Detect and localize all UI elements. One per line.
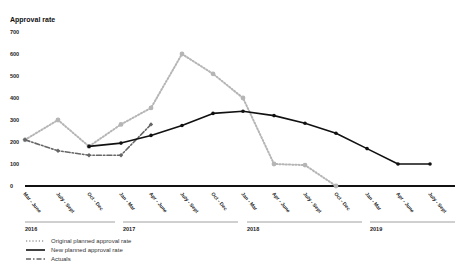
x-tick-label: July - Sept <box>302 191 323 214</box>
data-point-marker <box>334 184 339 189</box>
x-tick-label: Oct - Dec <box>86 191 105 212</box>
data-point-marker <box>180 124 184 128</box>
y-tick-label: 300 <box>10 117 19 123</box>
data-point-marker <box>56 149 60 153</box>
y-axis-ticks: 0100200300400500600700 <box>10 29 19 189</box>
data-point-marker <box>149 134 153 138</box>
data-point-marker <box>149 106 154 111</box>
y-tick-label: 0 <box>10 183 13 189</box>
x-tick-label: Apr - June <box>395 191 416 214</box>
data-point-marker <box>272 114 276 118</box>
x-axis-ticks: Mar - JuneJuly - SeptOct - DecJan - MarA… <box>22 191 448 214</box>
approval-rate-chart: Approval rate 0100200300400500600700 Mar… <box>0 0 465 272</box>
y-tick-label: 600 <box>10 51 19 57</box>
data-point-marker <box>396 162 400 166</box>
y-axis-title: Approval rate <box>10 16 55 24</box>
x-tick-label: July - Sept <box>179 191 200 214</box>
y-tick-label: 400 <box>10 95 19 101</box>
x-tick-label: Jan - Mar <box>364 191 383 212</box>
data-point-marker <box>303 122 307 126</box>
data-point-marker <box>87 145 91 149</box>
year-label: 2018 <box>247 226 259 232</box>
legend: Original planned approval rateNew planne… <box>26 238 132 262</box>
x-tick-label: Mar - June <box>22 191 43 214</box>
data-point-marker <box>272 162 277 167</box>
data-point-marker <box>87 153 91 157</box>
data-point-marker <box>56 118 61 123</box>
legend-label: Actuals <box>51 256 71 262</box>
data-point-marker <box>303 163 308 168</box>
data-point-marker <box>180 52 185 57</box>
y-tick-label: 100 <box>10 161 19 167</box>
data-point-marker <box>211 112 215 116</box>
x-tick-label: July - Sept <box>55 191 76 214</box>
year-groups: 2016201720182019 <box>25 222 455 232</box>
y-tick-label: 200 <box>10 139 19 145</box>
x-tick-label: Jan - Mar <box>240 191 259 212</box>
x-tick-label: Oct - Dec <box>333 191 352 212</box>
y-tick-label: 700 <box>10 29 19 35</box>
data-point-marker <box>428 162 432 166</box>
year-label: 2016 <box>25 226 37 232</box>
data-point-marker <box>119 122 124 127</box>
x-tick-label: Jan - Mar <box>118 191 137 212</box>
x-tick-label: Apr - June <box>148 191 169 214</box>
year-label: 2017 <box>123 226 135 232</box>
data-point-marker <box>334 131 338 135</box>
data-point-marker <box>365 147 369 151</box>
x-tick-label: Apr - June <box>271 191 292 214</box>
data-point-marker <box>119 141 123 145</box>
data-point-marker <box>211 71 216 76</box>
x-tick-label: July - Sept <box>427 191 448 214</box>
x-tick-label: Oct - Dec <box>210 191 229 212</box>
y-tick-label: 500 <box>10 73 19 79</box>
legend-label: Original planned approval rate <box>51 238 132 244</box>
year-label: 2019 <box>370 226 382 232</box>
legend-label: New planned approval rate <box>51 247 123 253</box>
data-point-marker <box>241 109 245 113</box>
series-lines <box>23 52 432 189</box>
data-point-marker <box>241 96 246 101</box>
